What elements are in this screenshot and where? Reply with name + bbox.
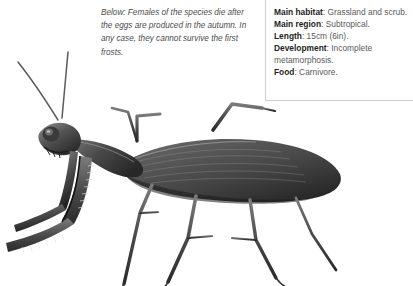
fact-label-length: Length <box>274 31 302 41</box>
walking-legs <box>124 185 336 284</box>
raptorial-forelegs <box>6 151 94 253</box>
fact-label-development: Development <box>274 43 327 53</box>
tarsi <box>116 278 286 286</box>
fact-row-main-habitat: Main habitat: Grassland and scrub. <box>274 6 409 18</box>
fact-value-food: : Carnivore. <box>294 67 337 77</box>
antennae <box>18 52 68 120</box>
mantis-abdomen-wings <box>118 139 341 204</box>
mantis-prothorax <box>68 140 143 178</box>
hind-legs <box>112 104 275 141</box>
fact-value-main-habitat: : Grassland and scrub. <box>323 7 407 17</box>
fact-row-food: Food: Carnivore. <box>274 66 409 78</box>
fact-row-development: Development: Incomplete metamorphosis. <box>274 42 409 66</box>
mantis-head <box>38 123 81 158</box>
fact-row-main-region: Main region: Subtropical. <box>274 18 409 30</box>
fact-label-main-region: Main region <box>274 19 321 29</box>
fact-value-main-region: : Subtropical. <box>321 19 370 29</box>
page-root: st Below: Females of the species die aft… <box>0 0 413 286</box>
fact-row-length: Length: 15cm (6in). <box>274 30 409 42</box>
fact-value-length: : 15cm (6in). <box>302 31 349 41</box>
figure-caption: Below: Females of the species die after … <box>101 6 247 59</box>
fact-label-main-habitat: Main habitat <box>274 7 323 17</box>
fact-label-food: Food <box>274 67 294 77</box>
fact-box: Main habitat: Grassland and scrub. Main … <box>265 0 413 101</box>
